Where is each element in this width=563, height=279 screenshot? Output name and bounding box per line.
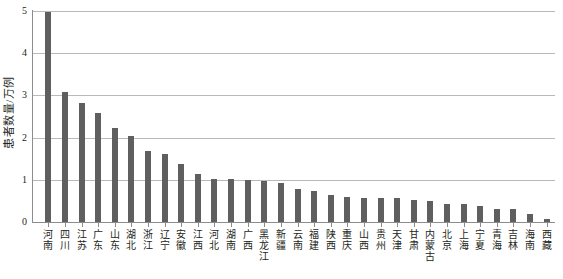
x-axis-tick-label-char: 林: [506, 240, 520, 251]
x-axis-tick-label-char: 湖: [224, 229, 238, 240]
bar: [228, 179, 234, 222]
x-axis-tick-label: 海南: [523, 229, 537, 251]
x-axis-tick-label-char: 江: [75, 229, 89, 240]
x-axis-tick-label: 陕西: [324, 229, 338, 251]
bar: [544, 219, 550, 222]
x-axis-tick-label-char: 甘: [407, 229, 421, 240]
bar: [95, 113, 101, 222]
x-axis-tick-label-char: 湖: [124, 229, 138, 240]
x-axis-tick-label-char: 广: [91, 229, 105, 240]
x-axis-tick-label-char: 山: [357, 229, 371, 240]
x-axis-tick-label-char: 东: [108, 240, 122, 251]
bar: [128, 136, 134, 223]
bar: [427, 201, 433, 222]
x-axis-tick-label-char: 龙: [257, 240, 271, 251]
x-axis-tick: [430, 223, 431, 227]
bar: [145, 151, 151, 222]
x-axis-tick-label-char: 西: [540, 229, 554, 240]
x-axis-tick-label-char: 西: [324, 240, 338, 251]
x-axis-tick: [547, 223, 548, 227]
x-axis-ticks: [32, 223, 555, 227]
x-axis-tick-label-char: 疆: [274, 240, 288, 251]
x-axis-tick-label-char: 夏: [473, 240, 487, 251]
x-axis-tick: [65, 223, 66, 227]
x-axis-tick-label: 贵州: [374, 229, 388, 251]
x-axis-tick: [347, 223, 348, 227]
x-axis-tick: [198, 223, 199, 227]
x-axis-tick-label: 广西: [241, 229, 255, 251]
x-axis-tick-label-char: 肃: [407, 240, 421, 251]
x-axis-tick-label: 江西: [191, 229, 205, 251]
x-axis-tick-label-char: 蒙: [423, 240, 437, 251]
x-axis-tick-label-char: 庆: [340, 240, 354, 251]
x-axis-tick-label: 青海: [490, 229, 504, 251]
bar: [411, 200, 417, 222]
y-axis-tick-label: 2: [22, 133, 27, 143]
x-axis-tick: [98, 223, 99, 227]
x-axis-tick-label-char: 重: [340, 229, 354, 240]
y-axis-title-text: 患者数量/万例: [4, 76, 15, 149]
x-axis-tick-label-char: 浙: [141, 229, 155, 240]
bar: [195, 174, 201, 222]
x-axis-tick: [231, 223, 232, 227]
bar: [311, 191, 317, 222]
bar: [461, 204, 467, 222]
x-axis-tick: [381, 223, 382, 227]
x-axis-tick-label-char: 江: [191, 229, 205, 240]
x-axis-tick: [48, 223, 49, 227]
x-axis-tick-label-char: 南: [523, 240, 537, 251]
x-axis-tick: [397, 223, 398, 227]
x-axis-tick: [530, 223, 531, 227]
x-axis-tick-label: 福建: [307, 229, 321, 251]
y-axis-tick-label: 3: [22, 90, 27, 100]
x-axis-tick-label: 吉林: [506, 229, 520, 251]
x-axis-tick-label-char: 宁: [473, 229, 487, 240]
x-axis-tick-label-char: 京: [440, 240, 454, 251]
plot-area: [32, 11, 555, 223]
bar: [162, 154, 168, 222]
x-axis-tick-label: 四川: [58, 229, 72, 251]
bar: [79, 103, 85, 222]
x-axis-tick-label-char: 黑: [257, 229, 271, 240]
x-axis-tick: [447, 223, 448, 227]
x-axis-tick-labels: 河南四川江苏广东山东湖北浙江辽宁安徽江西河北湖南广西黑龙江新疆云南福建陕西重庆山…: [32, 229, 555, 279]
x-axis-tick-label-char: 河: [41, 229, 55, 240]
x-axis-tick-label-char: 海: [457, 240, 471, 251]
x-axis-tick: [281, 223, 282, 227]
y-axis-tick-label: 5: [22, 6, 27, 16]
x-axis-tick-label-char: 海: [523, 229, 537, 240]
bar: [344, 197, 350, 222]
bar: [211, 179, 217, 222]
x-axis-tick-label: 甘肃: [407, 229, 421, 251]
x-axis-tick-label: 湖南: [224, 229, 238, 251]
x-axis-tick-label-char: 陕: [324, 229, 338, 240]
x-axis-tick-label-char: 西: [241, 240, 255, 251]
x-axis-tick-label: 新疆: [274, 229, 288, 251]
x-axis-tick: [214, 223, 215, 227]
bars-layer: [32, 11, 555, 223]
x-axis-tick-label-char: 四: [58, 229, 72, 240]
x-axis-tick-label-char: 辽: [158, 229, 172, 240]
x-axis-tick-label-char: 安: [174, 229, 188, 240]
y-axis-tick-labels: 012345: [16, 0, 30, 225]
bar: [261, 181, 267, 222]
x-axis-tick-label-char: 古: [423, 251, 437, 262]
x-axis-tick-label-char: 江: [257, 251, 271, 262]
x-axis-tick-label: 辽宁: [158, 229, 172, 251]
x-axis-tick-label: 山东: [108, 229, 122, 251]
x-axis-tick-label-char: 南: [41, 240, 55, 251]
x-axis-tick-label: 天津: [390, 229, 404, 251]
y-axis-tick-label: 1: [22, 175, 27, 185]
bar: [394, 198, 400, 222]
x-axis-tick-label-char: 南: [291, 240, 305, 251]
x-axis-tick: [181, 223, 182, 227]
x-axis-tick-label: 宁夏: [473, 229, 487, 251]
x-axis-tick-label: 河南: [41, 229, 55, 251]
x-axis-tick-label-char: 山: [108, 229, 122, 240]
x-axis-tick-label-char: 西: [191, 240, 205, 251]
x-axis-tick-label-char: 川: [58, 240, 72, 251]
bar: [112, 128, 118, 222]
bar: [510, 209, 516, 222]
x-axis-tick-label-char: 江: [141, 240, 155, 251]
x-axis-tick-label: 广东: [91, 229, 105, 251]
